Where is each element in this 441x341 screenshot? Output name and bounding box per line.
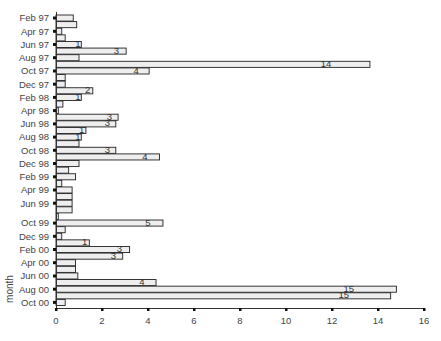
x-tick-mark <box>377 308 380 311</box>
y-tick-mark <box>53 288 56 291</box>
y-tick-mark <box>53 222 56 225</box>
x-tick-label: 10 <box>281 315 292 326</box>
y-tick-mark <box>53 248 56 251</box>
y-tick-mark <box>53 17 56 20</box>
bar <box>56 266 76 272</box>
y-tick-mark <box>53 202 56 205</box>
y-tick-label: Jun 00 <box>20 270 49 281</box>
bar <box>56 299 65 305</box>
y-tick-mark <box>53 96 56 99</box>
bar <box>56 187 72 193</box>
bar-value-label: 4 <box>133 65 138 76</box>
y-tick-label: Dec 97 <box>19 79 49 90</box>
y-tick-label: Feb 97 <box>19 12 49 23</box>
y-tick-label: Jun 97 <box>20 39 49 50</box>
x-tick-mark <box>193 308 196 311</box>
y-tick-label: Jun 99 <box>20 198 49 209</box>
y-tick-label: Feb 00 <box>19 244 49 255</box>
y-axis-ticks: Feb 97Apr 97Jun 97Aug 97Oct 97Dec 97Feb … <box>19 12 56 307</box>
bars-group <box>56 15 396 305</box>
y-tick-label: Oct 98 <box>21 145 49 156</box>
x-tick-mark <box>239 308 242 311</box>
y-tick-mark <box>53 70 56 73</box>
x-tick-label: 0 <box>53 315 58 326</box>
bar <box>56 81 65 87</box>
x-tick-mark <box>55 308 58 311</box>
bar-value-label: 3 <box>105 144 110 155</box>
bar-value-label: 3 <box>111 250 116 261</box>
y-tick-label: Apr 97 <box>21 26 49 37</box>
y-tick-mark <box>53 275 56 278</box>
bar <box>56 207 72 213</box>
y-tick-mark <box>53 261 56 264</box>
y-tick-label: Apr 98 <box>21 105 49 116</box>
bar <box>56 55 79 61</box>
y-tick-label: Aug 98 <box>19 131 49 142</box>
bar <box>56 200 72 206</box>
y-tick-mark <box>53 122 56 125</box>
x-tick-mark <box>101 308 104 311</box>
bar <box>56 167 69 173</box>
y-tick-mark <box>53 136 56 139</box>
y-tick-mark <box>53 189 56 192</box>
y-tick-label: Dec 99 <box>19 231 49 242</box>
bar-value-label: 1 <box>75 91 80 102</box>
bar-value-label: 3 <box>114 45 119 56</box>
y-tick-label: Jun 98 <box>20 118 49 129</box>
x-tick-mark <box>331 308 334 311</box>
bar <box>56 75 65 81</box>
y-tick-label: Oct 97 <box>21 65 49 76</box>
bar <box>56 260 76 266</box>
y-axis-label: month <box>4 275 15 303</box>
bar-value-label: 2 <box>85 84 90 95</box>
y-tick-label: Feb 98 <box>19 92 49 103</box>
bar-value-label: 3 <box>117 243 122 254</box>
y-tick-label: Oct 00 <box>21 297 49 308</box>
bar-value-label: 5 <box>145 217 150 228</box>
bar <box>56 161 79 167</box>
bar-value-label: 15 <box>339 289 350 300</box>
y-tick-mark <box>53 30 56 33</box>
x-tick-label: 16 <box>419 315 430 326</box>
y-tick-label: Aug 00 <box>19 284 49 295</box>
y-tick-mark <box>53 109 56 112</box>
bar-value-labels: 1314421331134513341515 <box>75 38 354 300</box>
bar-value-label: 4 <box>139 276 144 287</box>
bar-value-label: 3 <box>105 117 110 128</box>
bar <box>56 174 76 180</box>
x-axis-ticks: 0246810121416 <box>53 308 429 326</box>
bar-value-label: 1 <box>82 236 87 247</box>
y-tick-mark <box>53 83 56 86</box>
y-tick-mark <box>53 56 56 59</box>
x-tick-label: 6 <box>191 315 196 326</box>
y-tick-mark <box>53 235 56 238</box>
bar <box>56 35 65 41</box>
x-tick-label: 4 <box>145 315 150 326</box>
y-tick-label: Apr 00 <box>21 257 49 268</box>
y-tick-mark <box>53 43 56 46</box>
y-tick-label: Apr 99 <box>21 184 49 195</box>
bar <box>56 101 63 107</box>
x-tick-mark <box>147 308 150 311</box>
y-tick-mark <box>53 301 56 304</box>
y-tick-mark <box>53 149 56 152</box>
x-tick-label: 14 <box>373 315 384 326</box>
bar <box>56 273 78 279</box>
bar <box>56 194 72 200</box>
x-tick-label: 2 <box>99 315 104 326</box>
bar-chart: 1314421331134513341515 Feb 97Apr 97Jun 9… <box>0 0 441 341</box>
bar-value-label: 14 <box>321 58 332 69</box>
bar-value-label: 1 <box>75 131 80 142</box>
x-tick-mark <box>285 308 288 311</box>
x-tick-label: 12 <box>327 315 338 326</box>
y-tick-mark <box>53 175 56 178</box>
y-tick-label: Oct 99 <box>21 217 49 228</box>
bar-value-label: 1 <box>75 38 80 49</box>
bar <box>56 227 65 233</box>
bar <box>56 22 77 28</box>
y-tick-mark <box>53 162 56 165</box>
x-tick-label: 8 <box>237 315 242 326</box>
bar-value-label: 4 <box>142 151 147 162</box>
y-tick-label: Aug 97 <box>19 52 49 63</box>
y-tick-label: Dec 98 <box>19 158 49 169</box>
